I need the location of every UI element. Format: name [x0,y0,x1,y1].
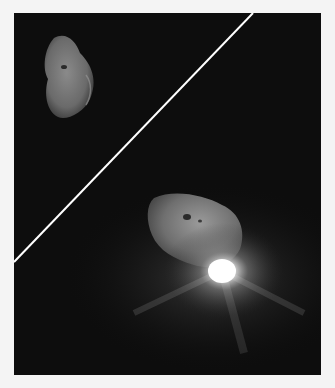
comet-scene [14,13,321,375]
comet-photo [14,13,321,375]
nucleus-before [45,36,94,118]
